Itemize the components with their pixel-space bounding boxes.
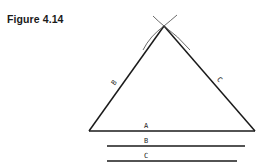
- triangle-side-c: [164, 26, 255, 131]
- triangle-label-c: C: [215, 75, 224, 83]
- triangle-construction-diagram: B C A B C: [0, 0, 267, 167]
- given-line-label-c: C: [144, 152, 148, 160]
- triangle-side-b: [89, 26, 164, 131]
- triangle-label-b: B: [110, 79, 119, 87]
- given-line-label-b: B: [144, 137, 148, 145]
- triangle-label-a: A: [144, 122, 149, 130]
